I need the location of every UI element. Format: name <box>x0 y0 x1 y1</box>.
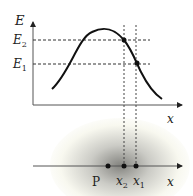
e2-point <box>122 38 127 43</box>
x1-point <box>134 164 139 169</box>
p-point <box>106 164 111 169</box>
diagram: E E2 E1 x P x2 x1 x <box>0 0 193 196</box>
x-axis-top-label: x <box>167 113 174 125</box>
x2-point <box>122 164 127 169</box>
diagram-lines <box>0 0 193 196</box>
y-axis-label: E <box>15 14 25 27</box>
e1-point <box>135 61 140 66</box>
x1-label: x1 <box>133 175 145 190</box>
x-axis-bottom-label: x <box>167 176 174 188</box>
p-label: P <box>92 176 100 188</box>
x2-label: x2 <box>116 175 128 190</box>
e1-label: E1 <box>13 58 27 73</box>
e2-label: E2 <box>13 34 27 49</box>
